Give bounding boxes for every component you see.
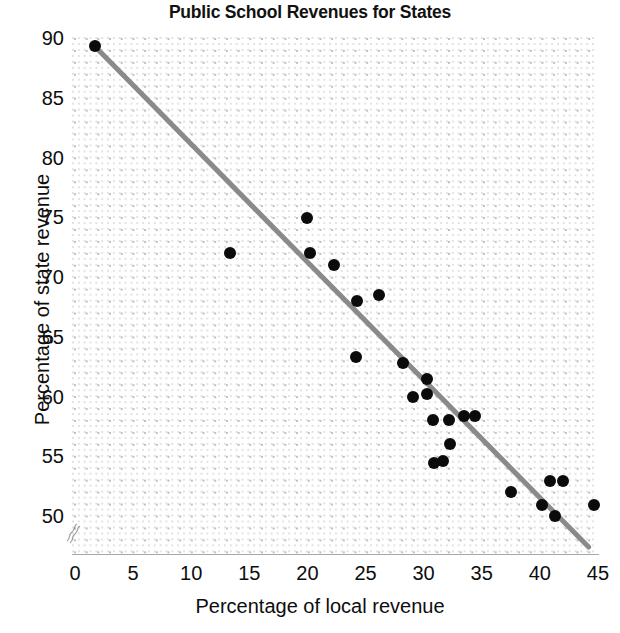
x-tick-label: 0	[45, 562, 105, 584]
y-axis-title: Percentage of state revenue	[31, 40, 54, 560]
data-point	[304, 247, 316, 259]
chart-title: Public School Revenues for States	[0, 2, 620, 23]
x-tick-label: 35	[452, 562, 512, 584]
x-axis-line	[72, 554, 599, 555]
x-tick-label: 30	[394, 562, 454, 584]
x-tick-label: 20	[277, 562, 337, 584]
scatter-chart: Public School Revenues for States 505560…	[0, 0, 620, 633]
x-tick-label: 10	[161, 562, 221, 584]
data-point	[421, 373, 433, 385]
data-point	[224, 247, 236, 259]
data-point	[469, 410, 481, 422]
x-axis-title: Percentage of local revenue	[40, 595, 600, 618]
plot-area	[72, 37, 598, 555]
x-tick-label: 25	[336, 562, 396, 584]
x-tick-label: 40	[510, 562, 570, 584]
data-point	[407, 391, 419, 403]
x-tick-label: 45	[568, 562, 620, 584]
x-axis-tick-labels: 051015202530354045	[0, 562, 620, 588]
data-point	[588, 499, 600, 511]
x-tick-label: 15	[219, 562, 279, 584]
x-tick-label: 5	[103, 562, 163, 584]
trend-line	[72, 37, 598, 555]
data-point	[397, 357, 409, 369]
axis-break-icon	[64, 523, 82, 545]
data-point	[505, 486, 517, 498]
data-point	[549, 510, 561, 522]
